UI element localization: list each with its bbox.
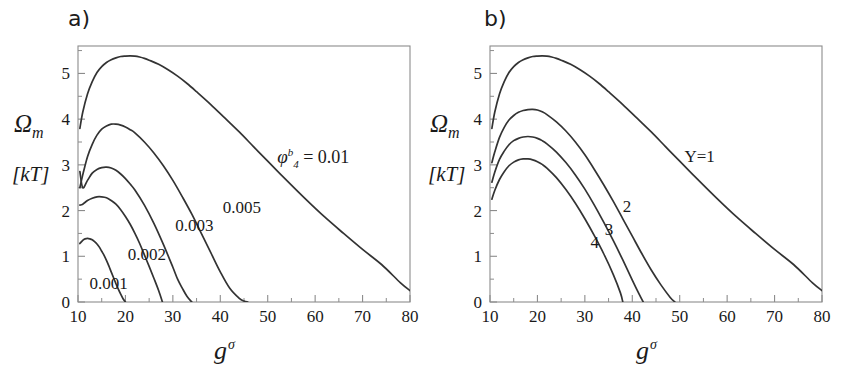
x-tick-label: 30	[164, 307, 181, 326]
panel-b-y-axis-label: Ωm	[430, 110, 460, 142]
y-tick-label: 5	[62, 64, 71, 83]
y-tick-label: 2	[62, 202, 71, 221]
x-tick-label: 10	[482, 307, 499, 326]
sigma-superscript: σ	[650, 337, 657, 352]
curve-label-2: 2	[623, 197, 632, 216]
curve-label-0-003: 0.003	[175, 216, 213, 235]
omega-symbol: Ω	[14, 110, 32, 137]
y-tick-label: 2	[474, 202, 483, 221]
curve-label-4: 4	[591, 233, 600, 252]
x-tick-label: 10	[70, 307, 87, 326]
y-tick-label: 1	[62, 247, 71, 266]
panel-b: b) Ωm [kT] gσ 1020304050607080012345Y=12…	[422, 0, 844, 384]
x-tick-label: 60	[307, 307, 324, 326]
g-symbol: g	[214, 336, 227, 365]
phi-value: = 0.01	[299, 147, 350, 167]
curve-Y-1	[492, 56, 822, 291]
y-tick-label: 3	[62, 156, 71, 175]
x-tick-label: 40	[624, 307, 641, 326]
y-tick-label: 1	[474, 247, 483, 266]
panel-b-x-axis-label: gσ	[636, 336, 657, 366]
panel-b-y-axis-units: [kT]	[428, 162, 465, 187]
panel-a-label: a)	[68, 6, 90, 31]
curve-label-0-001: 0.001	[89, 274, 127, 293]
curve-label-3: 3	[605, 220, 614, 239]
panel-a: a) Ωm [kT] gσ 1020304050607080012345φb4 …	[0, 0, 422, 384]
x-tick-label: 80	[814, 307, 831, 326]
x-tick-label: 50	[671, 307, 688, 326]
y-tick-label: 4	[62, 110, 71, 129]
omega-subscript: m	[32, 124, 44, 141]
x-tick-label: 70	[766, 307, 783, 326]
x-tick-label: 20	[529, 307, 546, 326]
panel-a-x-axis-label: gσ	[214, 336, 235, 366]
g-symbol: g	[636, 336, 649, 365]
curve-label-0-005: 0.005	[223, 198, 261, 217]
plot-frame	[490, 46, 822, 302]
curve-label-0-01: φb4 = 0.01	[277, 146, 349, 170]
panel-a-plot: 1020304050607080012345φb4 = 0.010.0050.0…	[0, 0, 422, 384]
panel-b-label: b)	[484, 6, 507, 31]
y-tick-label: 0	[474, 293, 483, 312]
omega-symbol: Ω	[430, 110, 448, 137]
phi-superscript: b	[288, 146, 294, 158]
x-tick-label: 50	[259, 307, 276, 326]
x-tick-label: 60	[719, 307, 736, 326]
y-tick-label: 4	[474, 110, 483, 129]
y-tick-label: 3	[474, 156, 483, 175]
figure-container: a) Ωm [kT] gσ 1020304050607080012345φb4 …	[0, 0, 844, 384]
panel-b-plot: 1020304050607080012345Y=1234	[422, 0, 844, 384]
y-tick-label: 0	[62, 293, 71, 312]
curve-label-Y-1: Y=1	[684, 147, 714, 166]
x-tick-label: 40	[212, 307, 229, 326]
x-tick-label: 20	[117, 307, 134, 326]
curve-label-0-002: 0.002	[128, 245, 166, 264]
x-tick-label: 30	[576, 307, 593, 326]
x-tick-label: 80	[402, 307, 419, 326]
sigma-superscript: σ	[228, 337, 235, 352]
curves-group	[80, 56, 410, 302]
curves-group	[492, 56, 822, 302]
y-tick-label: 5	[474, 64, 483, 83]
curve-4	[492, 159, 623, 302]
phi-symbol: φ	[277, 146, 288, 167]
panel-a-y-axis-label: Ωm	[14, 110, 44, 142]
omega-subscript: m	[448, 124, 460, 141]
panel-a-y-axis-units: [kT]	[12, 162, 49, 187]
x-tick-label: 70	[354, 307, 371, 326]
